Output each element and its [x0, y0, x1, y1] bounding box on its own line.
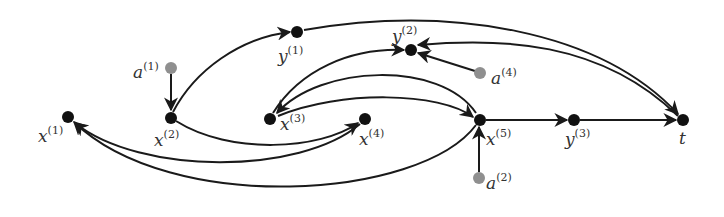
- labels: x(1) x(2) x(3) x(4) x(5) y(1) y(2) y(3) …: [38, 24, 686, 193]
- edge-x5-x1: [74, 122, 476, 187]
- label-x2: x(2): [154, 128, 179, 150]
- label-x4: x(4): [359, 127, 384, 149]
- label-y2: y(2): [391, 24, 417, 46]
- node-y2: [405, 44, 417, 56]
- node-y1: [291, 26, 303, 38]
- label-x5: x(5): [486, 127, 511, 149]
- edges: [74, 21, 678, 187]
- nodes: [62, 26, 689, 184]
- edge-a4-y2: [418, 53, 475, 71]
- edge-x4-x1: [75, 123, 360, 162]
- node-x4: [359, 113, 371, 125]
- edge-x2-y1: [173, 32, 290, 112]
- label-a1: a(1): [133, 60, 159, 82]
- node-x1: [62, 111, 74, 123]
- node-y3: [568, 114, 580, 126]
- edge-t-y2: [418, 42, 678, 116]
- label-a2: a(2): [486, 171, 512, 193]
- label-t: t: [679, 128, 686, 148]
- node-a2: [473, 172, 485, 184]
- label-a4: a(4): [491, 66, 517, 88]
- edge-x3-x5: [278, 97, 473, 117]
- edge-x3-y2: [273, 50, 404, 113]
- label-x1: x(1): [38, 124, 63, 146]
- node-a1: [165, 62, 177, 74]
- node-t: [677, 114, 689, 126]
- node-x2: [165, 112, 177, 124]
- node-a4: [474, 67, 486, 79]
- label-y1: y(1): [277, 44, 303, 66]
- label-y3: y(3): [564, 127, 590, 149]
- label-x3: x(3): [280, 112, 305, 134]
- node-x3: [264, 113, 276, 125]
- directed-graph: x(1) x(2) x(3) x(4) x(5) y(1) y(2) y(3) …: [0, 0, 724, 217]
- node-x5: [474, 114, 486, 126]
